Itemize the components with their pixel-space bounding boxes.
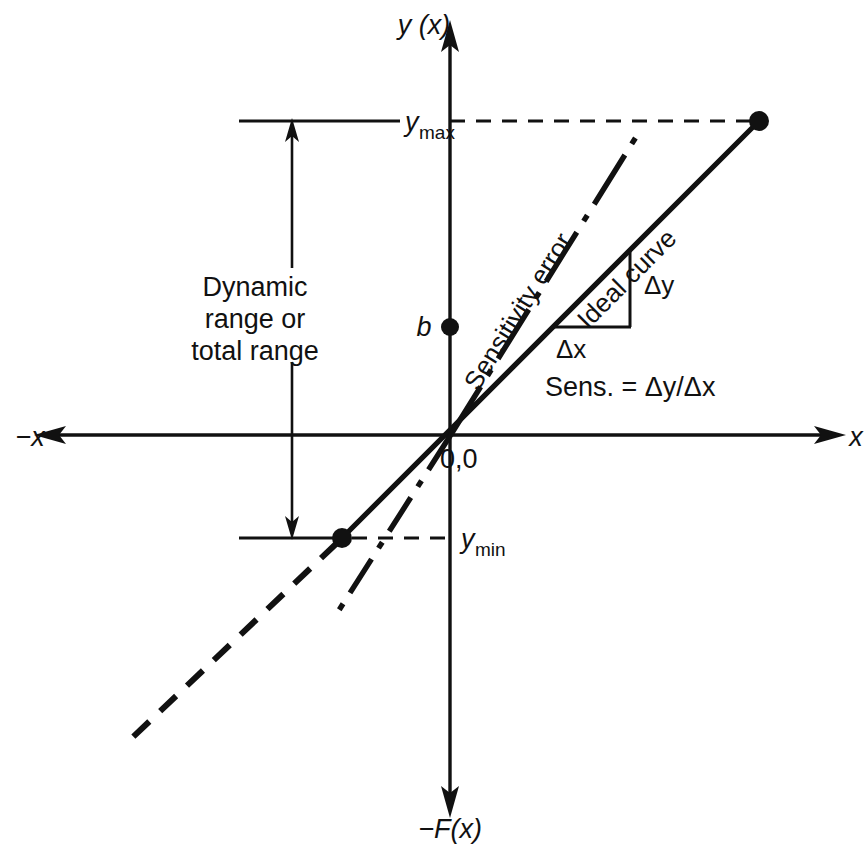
origin-label: 0,0	[440, 444, 478, 474]
y-max-subscript: max	[419, 122, 455, 143]
intercept-b-group: b	[416, 312, 459, 342]
y-min-subscript: min	[475, 539, 506, 560]
ideal-curve-group	[332, 111, 769, 548]
delta-x-label: Δx	[556, 334, 586, 364]
intercept-b-label: b	[416, 312, 431, 342]
sensitivity-formula-label: Sens. = Δy/Δx	[545, 372, 716, 402]
y-min-reference-group: y min	[239, 524, 506, 560]
sensitivity-error-label: Sensitivity error	[458, 227, 579, 395]
ideal-curve-dashed-extension	[133, 543, 337, 737]
transfer-function-diagram: y (x) −F(x) x −x 0,0 y max y min b	[0, 0, 867, 858]
dynamic-range-label-group: Dynamic range or total range	[191, 272, 319, 366]
y-max-reference-group: y max	[239, 107, 752, 143]
ideal-curve-line	[342, 123, 757, 538]
dynamic-range-line-2: range or	[205, 304, 306, 334]
ideal-curve-upper-endpoint-dot	[749, 111, 769, 131]
figure-canvas: y (x) −F(x) x −x 0,0 y max y min b	[0, 0, 867, 858]
dynamic-range-line-1: Dynamic	[202, 272, 307, 302]
x-axis-label: x	[847, 422, 864, 452]
y-axis-label: y (x)	[396, 10, 450, 40]
y-min-label: y	[459, 524, 476, 554]
negative-f-axis-label: −F(x)	[418, 814, 482, 844]
intercept-b-dot	[441, 318, 459, 336]
y-max-label: y	[403, 107, 420, 137]
dynamic-range-line-3: total range	[191, 336, 319, 366]
delta-y-label: Δy	[644, 270, 674, 300]
negative-x-axis-label: −x	[15, 422, 46, 452]
